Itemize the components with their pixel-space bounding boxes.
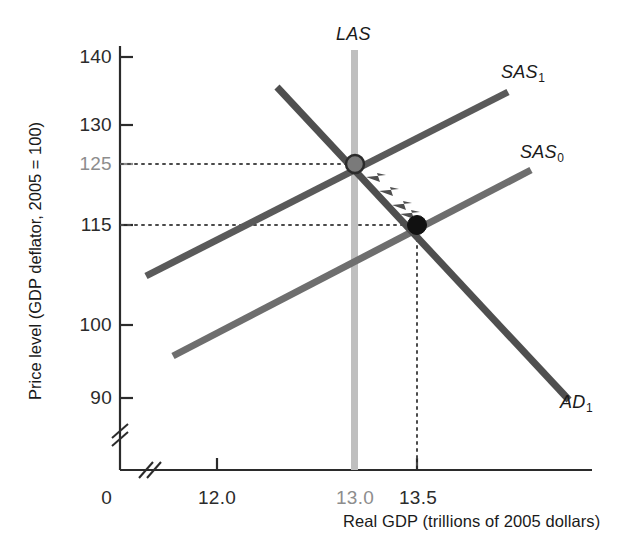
y-tick-marks [120, 57, 133, 398]
ad1-curve-label: AD1 [560, 392, 592, 413]
sas1-label-base: SAS [501, 62, 538, 82]
sas1-label-sub: 1 [538, 71, 545, 85]
y-tick-label-115: 115 [50, 214, 112, 236]
y-tick-label-100: 100 [50, 314, 112, 336]
y-axis-origin-label: 0 [50, 487, 112, 509]
y-axis-title: Price level (GDP deflator, 2005 = 100) [26, 122, 45, 400]
point-new-equilibrium [346, 155, 364, 173]
x-axis-title: Real GDP (trillions of 2005 dollars) [343, 512, 600, 531]
x-tick-label-13-5: 13.5 [383, 487, 453, 509]
ad1-label-sub: 1 [586, 401, 593, 415]
point-initial-equilibrium [408, 216, 427, 235]
sas1-curve [146, 92, 508, 276]
sas0-label-sub: 0 [557, 151, 564, 165]
sas0-label-base: SAS [520, 142, 557, 162]
las-curve-label: LAS [336, 24, 371, 45]
sas0-curve-label: SAS0 [520, 142, 564, 163]
y-tick-label-125: 125 [50, 153, 112, 175]
x-tick-marks [217, 458, 417, 470]
sas1-curve-label: SAS1 [501, 62, 545, 83]
y-tick-label-130: 130 [50, 114, 112, 136]
x-tick-label-13-0: 13.0 [320, 487, 390, 509]
ad1-label-base: AD [560, 392, 585, 412]
x-tick-label-12-0: 12.0 [182, 487, 252, 509]
y-tick-label-90: 90 [50, 387, 112, 409]
y-tick-label-140: 140 [50, 46, 112, 68]
macro-as-ad-chart: Price level (GDP deflator, 2005 = 100) 1… [0, 0, 621, 545]
